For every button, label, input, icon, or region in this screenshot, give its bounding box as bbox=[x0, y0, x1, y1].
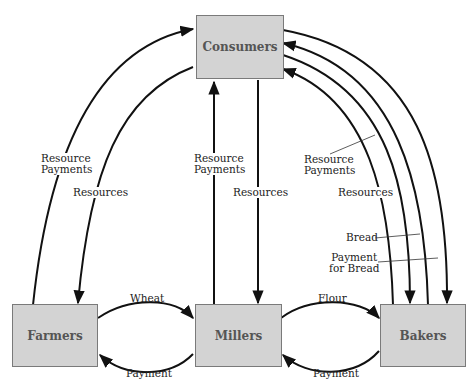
arrow-consumers-to-farmers-resources bbox=[78, 67, 193, 303]
bread-label: Bread bbox=[345, 232, 379, 243]
bakers-resources-label: Resources bbox=[337, 187, 394, 198]
consumers-label: Consumers bbox=[202, 40, 277, 54]
bakers-box: Bakers bbox=[380, 304, 466, 367]
farmers-resource-payments-label: ResourcePayments bbox=[40, 153, 93, 175]
millers-box: Millers bbox=[195, 304, 282, 367]
arrow-wheat bbox=[98, 302, 193, 318]
farmers-label: Farmers bbox=[27, 329, 82, 343]
leader-bread bbox=[375, 234, 420, 238]
leader-bakers-resource-payments bbox=[330, 135, 375, 154]
farmers-box: Farmers bbox=[12, 304, 98, 367]
arrow-flour bbox=[281, 302, 379, 318]
millers-label: Millers bbox=[215, 329, 263, 343]
flour-label: Flour bbox=[317, 293, 348, 304]
bakers-label: Bakers bbox=[400, 329, 447, 343]
farmers-payment-label: Payment bbox=[125, 368, 173, 379]
bakers-resource-payments-label: ResourcePayments bbox=[303, 154, 356, 176]
payment-for-bread-label: Paymentfor Bread bbox=[328, 252, 381, 274]
consumers-box: Consumers bbox=[196, 15, 284, 79]
millers-resource-payments-label: ResourcePayments bbox=[193, 153, 246, 175]
millers-resources-label: Resources bbox=[232, 187, 289, 198]
farmers-resources-label: Resources bbox=[72, 187, 129, 198]
wheat-label: Wheat bbox=[129, 293, 165, 304]
millers-payment-label: Payment bbox=[312, 368, 360, 379]
